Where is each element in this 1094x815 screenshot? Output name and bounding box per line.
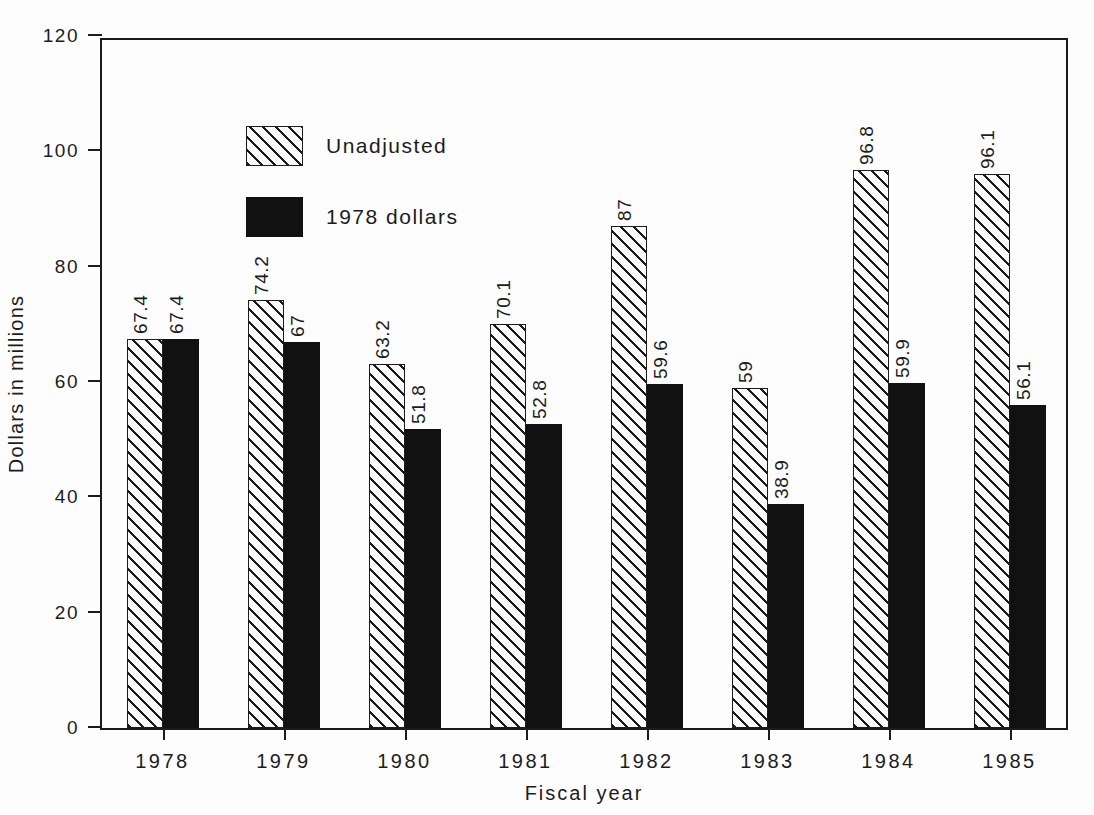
bar-value-label: 59.9 xyxy=(892,338,914,377)
y-tick: 20 xyxy=(88,611,102,613)
bar-1984-unadjusted: 96.8 xyxy=(853,170,889,728)
bar-1980-constant-dollars: 51.8 xyxy=(405,429,441,728)
bar-value-label: 63.2 xyxy=(372,319,394,358)
x-tick-label: 1980 xyxy=(377,750,432,773)
x-tick-label: 1981 xyxy=(498,750,553,773)
x-tick-label: 1982 xyxy=(619,750,674,773)
x-tick xyxy=(889,728,891,740)
y-tick-label: 0 xyxy=(67,717,79,739)
bar-value-label: 67 xyxy=(287,314,309,336)
bar-value-label: 96.8 xyxy=(856,125,878,164)
bar-1981-unadjusted: 70.1 xyxy=(490,324,526,728)
bar-value-label: 52.8 xyxy=(529,379,551,418)
y-tick-label: 100 xyxy=(43,140,79,162)
legend-swatch xyxy=(246,126,303,166)
bar-value-label: 67.4 xyxy=(130,295,152,334)
x-tick xyxy=(163,728,165,740)
bar-chart-figure: Dollars in millions 020406080100120 1978… xyxy=(0,0,1094,815)
x-axis-title: Fiscal year xyxy=(525,782,644,805)
x-tick xyxy=(768,728,770,740)
x-tick-label: 1985 xyxy=(982,750,1037,773)
bar-1985-unadjusted: 96.1 xyxy=(974,174,1010,728)
x-tick xyxy=(647,728,649,740)
y-tick-label: 80 xyxy=(55,256,79,278)
legend-label: Unadjusted xyxy=(326,134,447,158)
bar-value-label: 87 xyxy=(614,199,636,221)
bar-1979-constant-dollars: 67 xyxy=(284,342,320,728)
bar-value-label: 59.6 xyxy=(650,340,672,379)
y-axis-title: Dollars in millions xyxy=(5,295,28,473)
y-tick: 100 xyxy=(88,149,102,151)
bar-1983-constant-dollars: 38.9 xyxy=(768,504,804,728)
y-tick: 60 xyxy=(88,380,102,382)
x-tick xyxy=(1010,728,1012,740)
y-tick-label: 20 xyxy=(55,602,79,624)
bar-value-label: 56.1 xyxy=(1013,360,1035,399)
y-tick: 80 xyxy=(88,265,102,267)
bar-1979-unadjusted: 74.2 xyxy=(248,300,284,728)
bar-value-label: 96.1 xyxy=(977,129,999,168)
bar-1983-unadjusted: 59 xyxy=(732,388,768,728)
bar-1978-constant-dollars: 67.4 xyxy=(163,339,199,728)
bar-1985-constant-dollars: 56.1 xyxy=(1010,405,1046,729)
y-tick: 120 xyxy=(88,34,102,36)
bar-value-label: 38.9 xyxy=(771,459,793,498)
bar-value-label: 70.1 xyxy=(493,279,515,318)
bar-1982-constant-dollars: 59.6 xyxy=(647,384,683,728)
y-tick-label: 60 xyxy=(55,371,79,393)
bar-1978-unadjusted: 67.4 xyxy=(127,339,163,728)
bar-1982-unadjusted: 87 xyxy=(611,226,647,728)
bar-1981-constant-dollars: 52.8 xyxy=(526,424,562,728)
x-tick-label: 1978 xyxy=(135,750,190,773)
plot-area: 020406080100120 197819791980198119821983… xyxy=(100,38,1068,730)
legend-label: 1978 dollars xyxy=(326,205,458,229)
bar-1980-unadjusted: 63.2 xyxy=(369,364,405,728)
bar-1984-constant-dollars: 59.9 xyxy=(889,383,925,728)
x-tick xyxy=(405,728,407,740)
bar-value-label: 67.4 xyxy=(166,295,188,334)
y-tick-label: 120 xyxy=(43,25,79,47)
x-tick-label: 1979 xyxy=(256,750,311,773)
y-tick: 40 xyxy=(88,495,102,497)
y-tick-label: 40 xyxy=(55,486,79,508)
y-tick: 0 xyxy=(88,726,102,728)
bar-value-label: 51.8 xyxy=(408,385,430,424)
x-tick xyxy=(284,728,286,740)
x-tick xyxy=(526,728,528,740)
bar-value-label: 59 xyxy=(735,360,757,382)
x-tick-label: 1983 xyxy=(740,750,795,773)
bar-value-label: 74.2 xyxy=(251,256,273,295)
x-tick-label: 1984 xyxy=(861,750,916,773)
legend-swatch xyxy=(246,197,303,237)
